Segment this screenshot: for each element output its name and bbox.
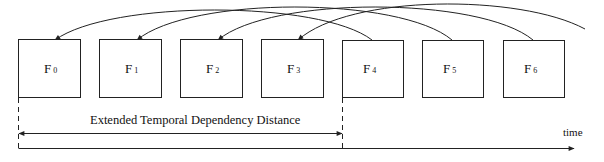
- frame-index: 3: [296, 66, 300, 75]
- arc-f4-to-f0: [55, 10, 372, 40]
- frame-f6: F6: [504, 41, 565, 98]
- frame-f5: F5: [423, 41, 484, 98]
- frame-index: 2: [215, 66, 219, 75]
- frame-index: 6: [533, 66, 537, 75]
- frame-index: 4: [372, 66, 376, 75]
- frame-label: F: [287, 61, 294, 76]
- frame-f3: F3: [262, 40, 324, 98]
- temporal-dependency-diagram: F0 F1 F2 F3 F4 F5 F6 Extended Temporal D…: [0, 0, 604, 162]
- frame-label: F: [206, 61, 213, 76]
- frame-f4: F4: [343, 41, 404, 98]
- frame-f2: F2: [181, 40, 243, 98]
- arc-f5-to-f1: [137, 7, 452, 40]
- frame-index: 1: [134, 66, 138, 75]
- frame-label: F: [524, 61, 531, 76]
- time-axis-label: time: [563, 126, 583, 138]
- distance-label: Extended Temporal Dependency Distance: [90, 113, 301, 127]
- arc-f7-to-f3: [298, 4, 585, 40]
- frame-label: F: [363, 61, 370, 76]
- frame-index: 5: [452, 66, 456, 75]
- frame-index: 0: [53, 66, 57, 75]
- frame-f0: F0: [19, 40, 81, 98]
- frame-label: F: [44, 61, 51, 76]
- frame-label: F: [125, 61, 132, 76]
- dependency-arcs: [55, 4, 585, 40]
- frame-f1: F1: [100, 40, 162, 98]
- frame-label: F: [443, 61, 450, 76]
